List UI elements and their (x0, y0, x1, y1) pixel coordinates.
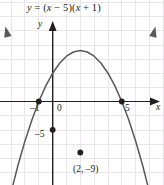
x-tick-label-zero: 0 (57, 104, 62, 114)
graph-figure: y = (x − 5)(x + 1) y x –1 0 5 –5 (2, –9) (0, 0, 164, 185)
point-vertex (77, 150, 83, 156)
x-axis-label: x (156, 103, 160, 113)
y-axis (49, 21, 57, 185)
point-y-intercept (50, 127, 56, 133)
equation-title: y = (x − 5)(x + 1) (27, 3, 101, 14)
parabola-plot (0, 0, 164, 185)
y-tick-label-neg5: –5 (35, 130, 45, 140)
point-root-five (119, 99, 125, 105)
x-tick-label-neg1: –1 (30, 104, 40, 114)
y-axis-label: y (38, 20, 42, 30)
vertex-annotation: (2, –9) (73, 165, 98, 175)
x-tick-label-five: 5 (125, 104, 130, 114)
